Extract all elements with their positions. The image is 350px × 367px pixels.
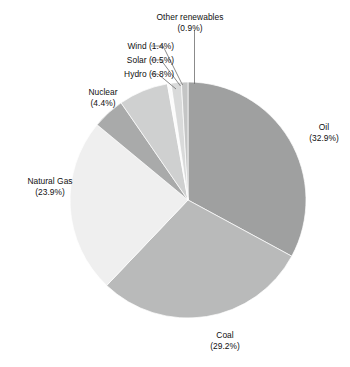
slice-label-other-renewables-name: Other renewables	[138, 12, 242, 23]
slice-label-nuclear-name: Nuclear	[62, 87, 144, 98]
slice-label-solar: Solar (0.5%)	[74, 55, 174, 66]
slice-label-oil: Oil (32.9%)	[300, 122, 348, 143]
slice-label-solar-text: Solar (0.5%)	[74, 55, 174, 66]
slice-label-coal: Coal (29.2%)	[183, 330, 267, 351]
pie-chart: Other renewables (0.9%) Wind (1.4%) Sola…	[0, 0, 350, 367]
slice-label-other-renewables-value: (0.9%)	[138, 23, 242, 34]
slice-label-wind: Wind (1.4%)	[74, 41, 174, 52]
slice-label-coal-value: (29.2%)	[183, 341, 267, 352]
slice-label-nuclear: Nuclear (4.4%)	[62, 87, 144, 108]
slice-label-oil-value: (32.9%)	[300, 133, 348, 144]
pie-slice-group	[70, 82, 306, 318]
slice-label-hydro: Hydro (6.8%)	[64, 69, 174, 80]
slice-label-coal-name: Coal	[183, 330, 267, 341]
slice-label-natural-gas-value: (23.9%)	[4, 187, 96, 198]
slice-label-nuclear-value: (4.4%)	[62, 98, 144, 109]
slice-label-oil-name: Oil	[300, 122, 348, 133]
slice-label-other-renewables: Other renewables (0.9%)	[138, 12, 242, 33]
slice-label-natural-gas: Natural Gas (23.9%)	[4, 176, 96, 197]
slice-label-wind-text: Wind (1.4%)	[74, 41, 174, 52]
slice-label-hydro-text: Hydro (6.8%)	[64, 69, 174, 80]
slice-label-natural-gas-name: Natural Gas	[4, 176, 96, 187]
